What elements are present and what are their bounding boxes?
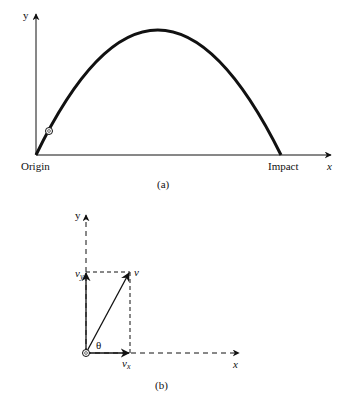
origin-label: Origin xyxy=(21,161,50,172)
a-x-axis-label: x xyxy=(327,161,332,172)
v-label: v xyxy=(134,267,139,278)
panel-a-trajectory xyxy=(36,14,331,155)
a-y-axis-label: y xyxy=(23,10,29,21)
trajectory-curve xyxy=(36,30,281,155)
vx-label: vx xyxy=(122,358,130,371)
caption-b: (b) xyxy=(155,380,168,391)
vy-label: vy xyxy=(75,268,83,281)
v-vector xyxy=(86,273,129,353)
projectile-ball-icon xyxy=(46,128,53,135)
impact-label: Impact xyxy=(268,161,299,172)
panel-b-velocity-components xyxy=(83,215,240,357)
b-x-axis-label: x xyxy=(233,359,238,370)
projectile-ball-icon xyxy=(83,350,90,357)
projectile-diagram xyxy=(0,0,344,397)
theta-label: θ xyxy=(96,340,101,351)
caption-a: (a) xyxy=(157,179,169,190)
b-y-axis-label: y xyxy=(75,210,81,221)
